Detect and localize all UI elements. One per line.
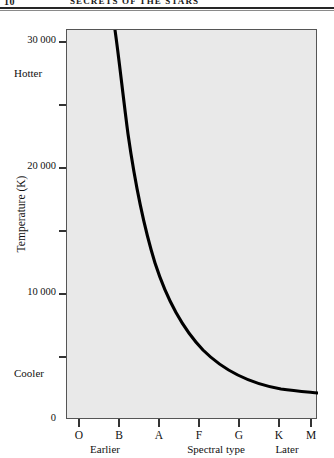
x-tick-M xyxy=(310,419,312,427)
x-tick-label-O: O xyxy=(67,429,91,441)
x-tick-label-M: M xyxy=(299,429,323,441)
header-rule xyxy=(0,7,334,9)
page-number: 10 xyxy=(4,0,15,7)
annotation-hotter: Hotter xyxy=(14,67,42,79)
x-tick-G xyxy=(238,419,240,427)
y-tick-label-20000: 20 000 xyxy=(27,160,56,171)
x-tick-K xyxy=(278,419,280,427)
y-axis-title: Temperature (K) xyxy=(15,149,27,279)
x-tick-B xyxy=(118,419,120,427)
y-tick-label-0: 0 xyxy=(51,412,56,423)
x-tick-A xyxy=(158,419,160,427)
temperature-spectral-type-chart: Temperature (K) 30 000 20 000 10 000 0 H… xyxy=(0,12,334,458)
plot-area xyxy=(66,29,317,419)
temperature-curve xyxy=(67,30,318,420)
y-tick-label-30000: 30 000 xyxy=(27,34,56,45)
x-axis-title: Spectral type xyxy=(170,443,262,455)
x-tick-O xyxy=(78,419,80,427)
running-title: SECRETS OF THE STARS xyxy=(70,0,199,6)
x-tick-label-B: B xyxy=(107,429,131,441)
x-tick-F xyxy=(198,419,200,427)
annotation-earlier: Earlier xyxy=(75,443,135,455)
x-tick-label-G: G xyxy=(227,429,251,441)
y-tick-label-10000: 10 000 xyxy=(27,286,56,297)
header-rule-secondary xyxy=(0,10,334,11)
x-tick-label-K: K xyxy=(267,429,291,441)
temperature-curve-path xyxy=(115,30,318,393)
annotation-cooler: Cooler xyxy=(14,367,44,379)
annotation-later: Later xyxy=(262,443,312,455)
x-tick-label-F: F xyxy=(187,429,211,441)
x-tick-label-A: A xyxy=(147,429,171,441)
